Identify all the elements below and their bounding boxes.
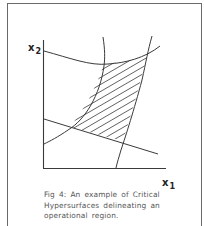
y-axis-label-subscript: 2 [35, 47, 41, 56]
operational-region-hatching [60, 22, 160, 178]
x-axis-label: x1 [162, 173, 175, 189]
right-hypersurface [116, 36, 152, 168]
figure-caption: Fig 4: An example of Critical Hypersurfa… [44, 190, 194, 222]
straight-hypersurface [44, 119, 158, 154]
caption-line-1: Fig 4: An example of Critical [44, 190, 194, 201]
y-axis-label-main: x [28, 42, 34, 53]
top-hypersurface [44, 46, 160, 64]
x-axis-label-main: x [162, 177, 168, 188]
caption-line-3: operational region. [44, 211, 194, 222]
caption-line-2: Hypersurfaces delineating an [44, 201, 194, 212]
y-axis-label: x2 [28, 38, 41, 54]
